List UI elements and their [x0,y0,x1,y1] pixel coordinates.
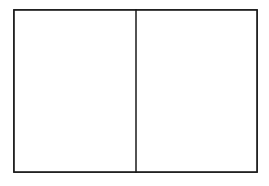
figure-root [0,0,269,186]
two-panel-diagram-svg [0,0,269,186]
